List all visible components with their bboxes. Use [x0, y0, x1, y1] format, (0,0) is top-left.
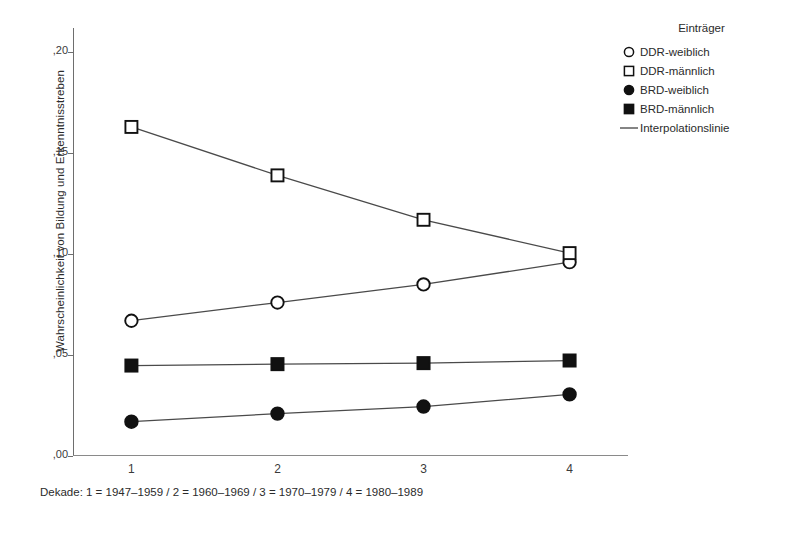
interpolation-line — [131, 361, 569, 366]
y-tick-mark — [68, 456, 73, 457]
legend-items: DDR-weiblichDDR-männlichBRD-weiblichBRD-… — [618, 42, 793, 137]
legend-item[interactable]: Interpolationslinie — [618, 118, 793, 137]
open-square-icon — [618, 64, 640, 78]
data-point-marker — [125, 315, 137, 327]
y-tick-label: ,15 — [53, 145, 68, 157]
legend-item[interactable]: BRD-weiblich — [618, 80, 793, 99]
data-point-marker — [125, 415, 138, 428]
data-point-marker — [417, 278, 429, 290]
data-point-marker — [417, 357, 429, 369]
series-filled-circle — [125, 388, 576, 428]
legend: Einträger DDR-weiblichDDR-männlichBRD-we… — [618, 22, 793, 137]
interpolation-line — [131, 262, 569, 321]
y-tick-label: ,10 — [53, 246, 68, 258]
line-icon — [618, 121, 640, 135]
x-tick-label: 2 — [274, 462, 281, 476]
data-point-marker — [417, 400, 430, 413]
legend-item-label: DDR-männlich — [640, 65, 715, 77]
x-tick-label: 3 — [420, 462, 427, 476]
legend-title: Einträger — [618, 22, 793, 34]
data-point-marker — [271, 358, 283, 370]
series-open-square — [125, 121, 575, 259]
data-point-marker — [564, 247, 576, 259]
data-point-marker — [271, 296, 283, 308]
data-point-marker — [125, 359, 137, 371]
interpolation-line — [131, 394, 569, 421]
legend-item-label: DDR-weiblich — [640, 46, 710, 58]
filled-circle-icon — [618, 83, 640, 97]
filled-square-icon — [618, 102, 640, 116]
series-filled-square — [125, 354, 576, 371]
legend-item-label: Interpolationslinie — [640, 122, 730, 134]
y-tick-label: ,05 — [53, 347, 68, 359]
plot-area: ,00,05,10,15,20 1234 — [73, 28, 628, 456]
data-point-marker — [563, 354, 575, 366]
legend-item-label: BRD-männlich — [640, 103, 714, 115]
x-tick-label: 4 — [566, 462, 573, 476]
data-point-marker — [563, 388, 576, 401]
x-axis-caption: Dekade: 1 = 1947–1959 / 2 = 1960–1969 / … — [40, 486, 640, 498]
series-layer — [73, 28, 628, 456]
y-tick-label: ,00 — [53, 448, 68, 460]
legend-item[interactable]: BRD-männlich — [618, 99, 793, 118]
legend-item[interactable]: DDR-weiblich — [618, 42, 793, 61]
data-point-marker — [271, 407, 284, 420]
data-point-marker — [418, 214, 430, 226]
interpolation-line — [131, 127, 569, 253]
series-open-circle — [125, 256, 576, 327]
data-point-marker — [271, 169, 283, 181]
x-tick-label: 1 — [128, 462, 135, 476]
open-circle-icon — [618, 45, 640, 59]
y-tick-label: ,20 — [53, 44, 68, 56]
data-point-marker — [125, 121, 137, 133]
legend-item-label: BRD-weiblich — [640, 84, 709, 96]
legend-item[interactable]: DDR-männlich — [618, 61, 793, 80]
chart-figure: Wahrscheinlichkeit von Bildung und Erken… — [0, 0, 795, 533]
